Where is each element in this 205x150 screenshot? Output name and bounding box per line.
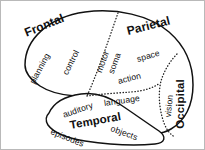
- brain-lobe-diagram: FrontalParietalOccipitalTemporalplanning…: [0, 0, 205, 150]
- vision-function-label: vision: [164, 94, 175, 117]
- occipital-lobe-label: Occipital: [175, 79, 187, 128]
